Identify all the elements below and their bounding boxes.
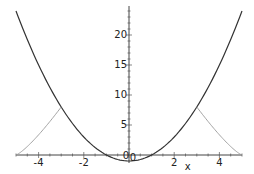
axis-labels: -4-224005101520x <box>34 29 223 172</box>
y-tick-label: 20 <box>114 29 127 40</box>
series-right-hump <box>197 107 242 155</box>
x-tick-label: 4 <box>216 157 222 168</box>
y-tick-label: 10 <box>114 89 127 100</box>
y-tick-label: 15 <box>114 59 127 70</box>
x-tick-label: -4 <box>34 157 44 168</box>
x-axis-label: x <box>185 161 191 172</box>
origin-label-y: 0 <box>123 150 129 161</box>
series-left-hump <box>16 107 61 155</box>
y-tick-label: 5 <box>121 119 127 130</box>
origin-label-x: 0 <box>130 152 136 163</box>
x-tick-label: -2 <box>79 157 89 168</box>
chart-plot: -4-224005101520x <box>0 0 254 174</box>
axes <box>16 6 242 163</box>
x-tick-label: 2 <box>171 157 177 168</box>
